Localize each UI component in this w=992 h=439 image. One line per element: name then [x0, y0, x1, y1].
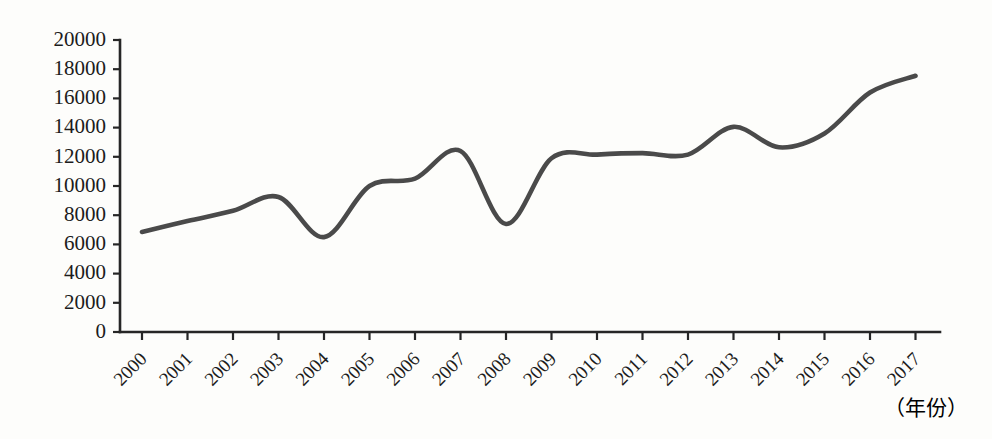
- x-tick-label: 2006: [382, 348, 424, 390]
- y-tick-label: 16000: [54, 85, 107, 109]
- x-tick-label: 2001: [155, 348, 197, 390]
- y-tick-label: 8000: [64, 202, 106, 226]
- x-tick-label: 2016: [837, 348, 879, 390]
- x-tick-label: 2011: [610, 348, 651, 389]
- y-tick-label: 2000: [64, 290, 106, 314]
- x-tick-label: 2012: [655, 348, 697, 390]
- y-tick-label: 6000: [64, 231, 106, 255]
- x-tick-label: 2007: [428, 348, 470, 390]
- x-tick-label: 2010: [564, 348, 606, 390]
- y-tick-label: 12000: [54, 144, 107, 168]
- x-axis-caption-label: （年份）: [884, 396, 968, 420]
- x-tick-label: 2002: [200, 348, 242, 390]
- x-tick-label: 2014: [746, 348, 788, 390]
- x-tick-label: 2000: [109, 348, 151, 390]
- chart-figure: 2000018000160001400012000100008000600040…: [0, 0, 992, 439]
- y-tick-label: 18000: [54, 56, 107, 80]
- x-tick-label: 2004: [291, 348, 333, 390]
- x-axis-caption: （年份）: [884, 391, 968, 421]
- x-tick-label: 2015: [792, 348, 834, 390]
- x-tick-label: 2017: [883, 348, 925, 390]
- x-tick-label: 2008: [473, 348, 515, 390]
- x-axis-tick-labels: 2000200120022003200420052006200720082009…: [109, 348, 924, 390]
- y-tick-label: 14000: [54, 114, 107, 138]
- x-tick-label: 2009: [519, 348, 561, 390]
- y-axis-tick-labels: 2000018000160001400012000100008000600040…: [54, 27, 107, 343]
- x-tick-label: 2005: [337, 348, 379, 390]
- y-tick-label: 4000: [64, 260, 106, 284]
- x-tick-label: 2003: [246, 348, 288, 390]
- y-tick-label: 20000: [54, 27, 107, 51]
- data-series-line: [142, 76, 916, 237]
- x-tick-label: 2013: [701, 348, 743, 390]
- line-chart-canvas: 2000018000160001400012000100008000600040…: [0, 0, 992, 439]
- y-tick-label: 0: [96, 319, 107, 343]
- y-tick-label: 10000: [54, 173, 107, 197]
